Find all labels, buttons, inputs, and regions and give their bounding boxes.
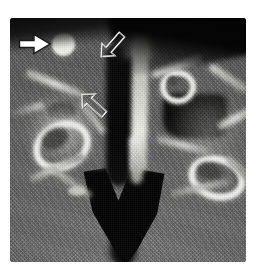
page-margin-right [246,0,256,274]
arrow-right-solid-icon[interactable] [18,32,52,56]
scan-image-frame[interactable] [10,18,246,262]
arrow-up-left-outline-icon[interactable] [80,92,110,122]
page-margin-bottom [0,262,256,274]
radiograph-figure: Axial cone-beam CT slice of the anterior… [0,0,256,274]
arrow-down-left-outline-icon[interactable] [99,29,129,59]
page-margin-top [0,0,256,18]
page-margin-left [0,0,10,274]
